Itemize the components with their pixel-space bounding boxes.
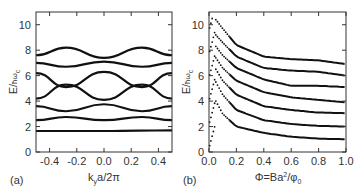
data-dot <box>212 107 214 109</box>
data-dot <box>223 95 225 97</box>
x-tick-label: 0.8 <box>311 155 326 167</box>
y-tick-label: 8 <box>198 44 204 56</box>
data-dot <box>220 52 222 54</box>
data-dot <box>226 59 228 61</box>
data-dot <box>226 33 228 35</box>
data-dot <box>210 116 212 118</box>
data-dot <box>210 46 212 48</box>
data-dot <box>217 59 219 61</box>
data-dot <box>212 60 214 62</box>
data-dot <box>212 84 214 86</box>
data-dot <box>218 87 220 89</box>
x-tick-label: 0.2 <box>229 155 244 167</box>
data-dot <box>218 38 220 40</box>
x-tick-label: 0.4 <box>256 155 271 167</box>
data-dot <box>226 85 228 87</box>
x-tick-label: -0.2 <box>67 155 86 167</box>
data-dot <box>211 88 213 90</box>
panel-a-label: (a) <box>10 174 23 186</box>
panel-b-ylabel: E/ħωc <box>180 69 194 94</box>
data-dot <box>217 84 219 86</box>
y-tick-label: 10 <box>19 19 31 31</box>
data-dot <box>218 62 220 64</box>
data-dot <box>220 109 222 111</box>
data-dot <box>225 97 227 99</box>
data-dot <box>215 68 217 70</box>
data-dot <box>222 54 224 56</box>
band-curve <box>36 130 172 131</box>
data-dot <box>211 112 213 114</box>
data-dot <box>211 135 213 137</box>
data-dot <box>222 41 224 43</box>
y-tick-label: 4 <box>198 95 204 107</box>
data-dot <box>222 67 224 69</box>
data-dot <box>222 112 224 114</box>
panel-b-label: (b) <box>183 174 196 186</box>
y-tick-label: 2 <box>198 121 204 133</box>
data-dot <box>215 34 217 36</box>
data-dot <box>222 79 224 81</box>
data-dot <box>225 31 227 33</box>
band-curve <box>36 85 172 100</box>
y-tick-label: 8 <box>25 44 31 56</box>
data-dot <box>223 81 225 83</box>
level-curve <box>230 62 345 87</box>
x-tick-label: 0.0 <box>96 155 111 167</box>
x-tick-label: 0.2 <box>124 155 139 167</box>
data-dot <box>220 64 222 66</box>
data-dot <box>223 68 225 70</box>
band-curve <box>36 104 172 111</box>
data-dot <box>214 55 216 57</box>
panel-a-curves <box>36 48 172 131</box>
data-dot <box>218 50 220 52</box>
y-tick-label: 4 <box>25 95 31 107</box>
panel-a-ylabel: E/ħωc <box>7 69 21 94</box>
panel-b-curves <box>209 18 345 147</box>
panel-b: 0.00.20.40.60.81.00246810 E/ħωc Φ=Ba2/φ0… <box>180 12 354 186</box>
data-dot <box>215 81 217 83</box>
data-dot <box>225 45 227 47</box>
x-tick-label: -0.4 <box>40 155 59 167</box>
data-dot <box>223 29 225 31</box>
y-tick-label: 2 <box>25 121 31 133</box>
data-dot <box>220 90 222 92</box>
data-dot <box>215 57 217 59</box>
y-tick-label: 0 <box>198 146 204 158</box>
x-tick-label: 1.0 <box>338 155 353 167</box>
data-dot <box>217 36 219 38</box>
y-tick-label: 10 <box>192 19 204 31</box>
data-dot <box>210 22 212 24</box>
level-curve <box>230 102 345 126</box>
data-dot <box>222 27 224 29</box>
panel-a: -0.4-0.20.00.20.40246810 E/ħωc kya/2π (a… <box>7 12 172 186</box>
x-tick-label: 0.4 <box>151 155 166 167</box>
data-dot <box>215 100 217 102</box>
x-tick-label: 0.6 <box>284 155 299 167</box>
data-dot <box>210 69 212 71</box>
data-dot <box>223 43 225 45</box>
data-dot <box>218 74 220 76</box>
band-curve <box>36 117 172 120</box>
data-dot <box>225 116 227 118</box>
y-tick-label: 6 <box>198 70 204 82</box>
data-dot <box>210 140 212 142</box>
data-dot <box>225 57 227 59</box>
data-dot <box>222 93 224 95</box>
data-dot <box>214 79 216 81</box>
data-dot <box>215 45 217 47</box>
data-dot <box>217 48 219 50</box>
data-dot <box>218 106 220 108</box>
band-curve <box>36 62 172 67</box>
data-dot <box>217 71 219 73</box>
panel-b-xlabel: Φ=Ba2/φ0 <box>255 171 302 185</box>
data-dot <box>212 36 214 38</box>
data-dot <box>226 117 228 119</box>
data-dot <box>217 21 219 23</box>
data-dot <box>214 126 216 128</box>
data-dot <box>217 103 219 105</box>
data-dot <box>226 46 228 48</box>
figure: -0.4-0.20.00.20.40246810 E/ħωc kya/2π (a… <box>0 0 360 195</box>
data-dot <box>215 19 217 21</box>
data-dot <box>212 131 214 133</box>
data-dot <box>225 83 227 85</box>
